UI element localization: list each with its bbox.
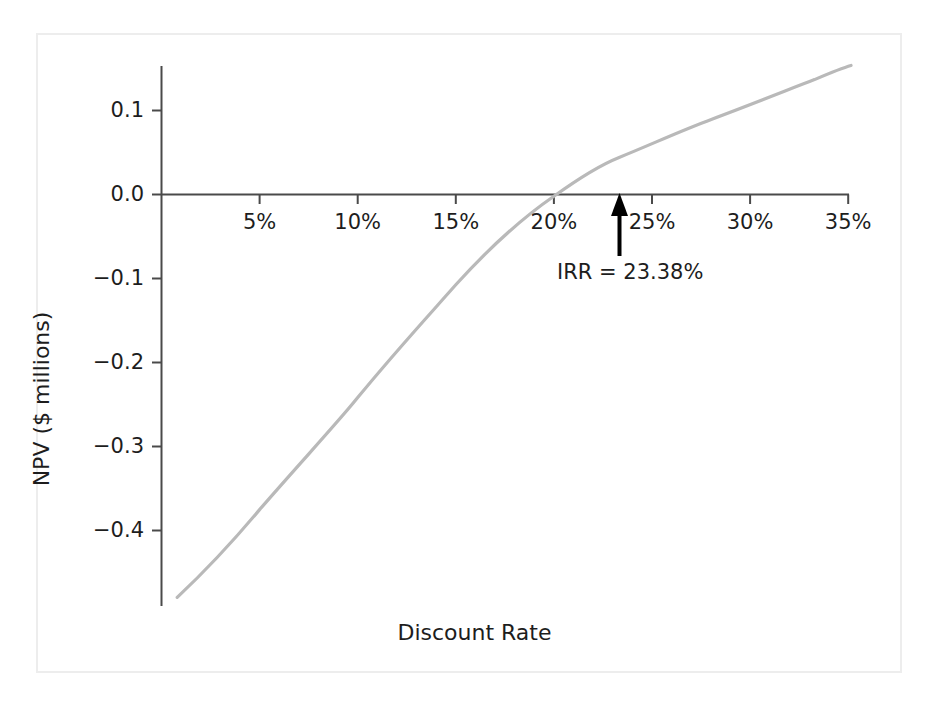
x-tick-label: 30% [700,212,800,233]
x-axis-title: Discount Rate [0,622,949,644]
y-axis-title: NPV ($ millions) [31,269,53,529]
x-tick-label: 15% [406,212,506,233]
x-tick-label: 20% [504,212,604,233]
x-tick-label: 25% [602,212,702,233]
figure-canvas: 0.1 0.0 −0.1 −0.2 −0.3 −0.4 5% 10% 15% 2… [0,0,949,709]
x-tick-label: 10% [308,212,408,233]
y-tick-label: 0.1 [60,100,144,121]
y-tick-marks [152,111,162,531]
y-tick-label: −0.4 [60,520,144,541]
irr-annotation-label: IRR = 23.38% [557,262,703,283]
y-tick-label: −0.3 [60,436,144,457]
x-tick-label: 5% [210,212,310,233]
npv-curve [177,66,851,598]
y-tick-label: −0.1 [60,268,144,289]
x-tick-label: 35% [798,212,898,233]
y-tick-label: −0.2 [60,352,144,373]
y-tick-label: 0.0 [60,184,144,205]
